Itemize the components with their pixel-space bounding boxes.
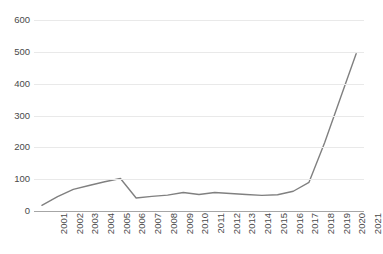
y-axis-tick-label: 0 [0, 206, 30, 216]
x-axis-tick-label: 2006 [137, 213, 147, 247]
x-axis-tick-label: 2019 [342, 213, 352, 247]
x-axis-tick-label: 2004 [106, 213, 116, 247]
x-axis-tick-label: 2009 [185, 213, 195, 247]
x-axis-tick-label: 2017 [310, 213, 320, 247]
gridline [34, 84, 364, 85]
y-axis-tick-label: 400 [0, 79, 30, 89]
plot-area [34, 20, 364, 211]
x-axis-tick-label: 2011 [216, 213, 226, 247]
x-axis-tick-label: 2001 [59, 213, 69, 247]
x-axis-tick-label: 2008 [169, 213, 179, 247]
y-axis-tick-label: 300 [0, 111, 30, 121]
gridline [34, 20, 364, 21]
gridline [34, 52, 364, 53]
x-axis-tick-label: 2018 [326, 213, 336, 247]
x-axis-tick-label: 2003 [90, 213, 100, 247]
y-axis: 0100200300400500600 [0, 0, 30, 254]
x-axis: 2001200220032004200520062007200820092010… [34, 213, 364, 254]
x-axis-tick-label: 2015 [279, 213, 289, 247]
x-axis-tick-label: 2007 [153, 213, 163, 247]
gridline [34, 116, 364, 117]
x-axis-tick-label: 2021 [373, 213, 383, 247]
y-axis-tick-label: 100 [0, 174, 30, 184]
x-axis-tick-label: 2012 [232, 213, 242, 247]
y-axis-tick-label: 500 [0, 47, 30, 57]
x-axis-tick-label: 2002 [75, 213, 85, 247]
chart-title [0, 0, 373, 5]
y-axis-tick-label: 600 [0, 15, 30, 25]
gridline [34, 179, 364, 180]
x-axis-tick-label: 2013 [247, 213, 257, 247]
x-axis-tick-label: 2005 [122, 213, 132, 247]
gridline [34, 147, 364, 148]
x-axis-line [34, 211, 364, 212]
x-axis-tick-label: 2020 [357, 213, 367, 247]
y-axis-tick-label: 200 [0, 142, 30, 152]
x-axis-tick-label: 2016 [295, 213, 305, 247]
x-axis-tick-label: 2014 [263, 213, 273, 247]
x-axis-tick-label: 2010 [200, 213, 210, 247]
